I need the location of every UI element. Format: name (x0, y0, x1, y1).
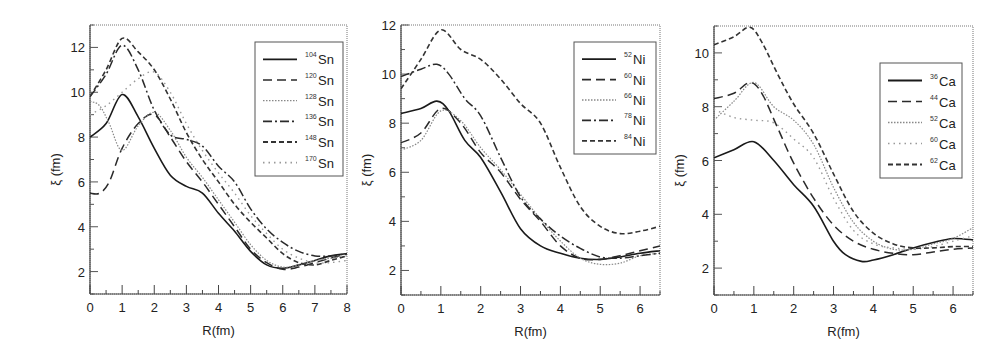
y-axis-title: ξ (fm) (48, 153, 63, 186)
x-tick-label: 1 (119, 300, 126, 315)
legend-element: Ni (633, 52, 645, 67)
legend-mass-number: 120 (305, 72, 317, 79)
y-tick-label: 6 (78, 175, 85, 190)
x-tick-label: 7 (311, 300, 318, 315)
panel-sn: 01234567824681012R(fm)ξ (fm)104Sn120Sn12… (48, 25, 351, 338)
x-tick-label: 6 (949, 301, 956, 316)
y-tick-label: 6 (389, 165, 396, 180)
y-tick-label: 10 (382, 67, 396, 82)
legend-element: Sn (318, 73, 334, 88)
panel-ni: 012345624681012R(fm)ξ (fm)52Ni60Ni66Ni78… (359, 18, 660, 339)
legend-element: Ca (939, 116, 956, 131)
x-tick-label: 5 (597, 301, 604, 316)
legend-mass-number: 60 (930, 136, 938, 143)
legend-element: Ni (633, 73, 645, 88)
legend-mass-number: 66 (624, 92, 632, 99)
y-tick-label: 10 (695, 46, 709, 61)
legend: 104Sn120Sn128Sn136Sn148Sn170Sn (255, 42, 343, 176)
legend-mass-number: 36 (930, 73, 938, 80)
x-tick-label: 6 (636, 301, 643, 316)
y-tick-label: 2 (389, 263, 396, 278)
legend-mass-number: 136 (305, 113, 317, 120)
y-tick-label: 4 (78, 220, 85, 235)
x-tick-label: 2 (790, 301, 797, 316)
x-axis-title: R(fm) (514, 324, 547, 339)
y-tick-label: 4 (702, 207, 709, 222)
legend: 36Ca44Ca52Ca60Ca62Ca (880, 63, 962, 178)
y-tick-label: 10 (71, 85, 85, 100)
x-tick-label: 5 (910, 301, 917, 316)
legend-element: Sn (318, 114, 334, 129)
legend-element: Sn (318, 156, 334, 171)
y-tick-label: 2 (78, 265, 85, 280)
legend-element: Sn (318, 94, 334, 109)
x-tick-label: 4 (870, 301, 877, 316)
legend-mass-number: 62 (930, 157, 938, 164)
figure: 01234567824681012R(fm)ξ (fm)104Sn120Sn12… (0, 0, 1004, 356)
legend-element: Ca (939, 158, 956, 173)
y-tick-label: 8 (78, 130, 85, 145)
y-tick-label: 2 (702, 261, 709, 276)
x-tick-label: 1 (437, 301, 444, 316)
legend-element: Sn (318, 52, 334, 67)
legend-mass-number: 60 (624, 72, 632, 79)
legend-element: Ca (939, 95, 956, 110)
legend-mass-number: 52 (930, 115, 938, 122)
x-tick-label: 3 (517, 301, 524, 316)
x-axis-title: R(fm) (202, 323, 235, 338)
legend: 52Ni60Ni66Ni78Ni84Ni (574, 42, 656, 154)
y-tick-label: 6 (702, 154, 709, 169)
x-tick-label: 2 (151, 300, 158, 315)
x-tick-label: 0 (710, 301, 717, 316)
y-tick-label: 12 (71, 40, 85, 55)
x-tick-label: 5 (247, 300, 254, 315)
x-tick-label: 8 (343, 300, 350, 315)
y-axis-title: ξ (fm) (672, 154, 687, 187)
legend-element: Ni (633, 134, 645, 149)
legend-mass-number: 52 (624, 51, 632, 58)
y-tick-label: 8 (702, 100, 709, 115)
y-axis-title: ξ (fm) (359, 154, 374, 187)
x-tick-label: 3 (830, 301, 837, 316)
legend-mass-number: 104 (305, 51, 317, 58)
x-tick-label: 4 (557, 301, 564, 316)
legend-element: Ni (633, 93, 645, 108)
panel-ca: 0123456246810R(fm)ξ (fm)36Ca44Ca52Ca60Ca… (672, 26, 973, 339)
y-tick-label: 12 (382, 18, 396, 33)
legend-mass-number: 44 (930, 94, 938, 101)
x-tick-label: 3 (183, 300, 190, 315)
legend-element: Sn (318, 135, 334, 150)
y-tick-label: 8 (389, 116, 396, 131)
y-tick-label: 4 (389, 214, 396, 229)
legend-mass-number: 128 (305, 93, 317, 100)
x-tick-label: 6 (279, 300, 286, 315)
legend-mass-number: 170 (305, 155, 317, 162)
legend-element: Ca (939, 74, 956, 89)
x-tick-label: 2 (477, 301, 484, 316)
legend-element: Ni (633, 113, 645, 128)
x-tick-label: 1 (750, 301, 757, 316)
legend-mass-number: 84 (624, 133, 632, 140)
legend-mass-number: 78 (624, 112, 632, 119)
x-tick-label: 0 (397, 301, 404, 316)
x-tick-label: 4 (215, 300, 222, 315)
legend-element: Ca (939, 137, 956, 152)
x-tick-label: 0 (86, 300, 93, 315)
x-axis-title: R(fm) (827, 324, 860, 339)
legend-mass-number: 148 (305, 134, 317, 141)
